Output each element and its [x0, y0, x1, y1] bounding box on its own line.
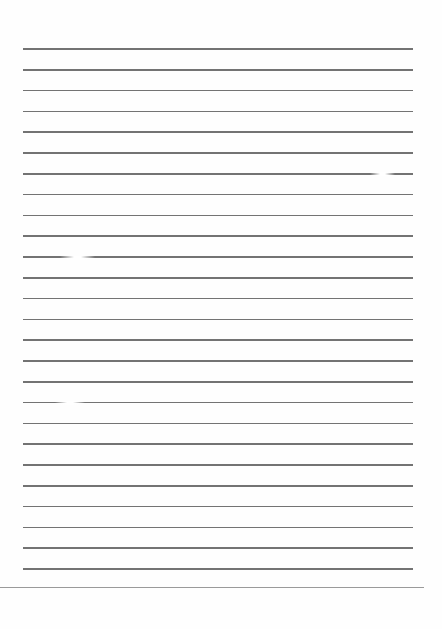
- ruled-line: [23, 527, 413, 529]
- ruled-line: [23, 152, 413, 154]
- ruled-line: [23, 568, 413, 570]
- ruled-line: [23, 547, 413, 549]
- ruled-line: [23, 381, 413, 383]
- ruled-line: [23, 506, 413, 508]
- ruled-line: [23, 319, 413, 321]
- ruled-line: [23, 277, 413, 279]
- ruled-line: [23, 194, 413, 196]
- ruled-line: [23, 131, 413, 133]
- ruled-line: [23, 111, 413, 113]
- scan-fade-spot: [60, 256, 95, 260]
- ruled-line: [23, 298, 413, 300]
- scan-fade-spot: [55, 401, 85, 405]
- ruled-line: [23, 69, 413, 71]
- ruled-line: [23, 360, 413, 362]
- page-bottom-edge: [0, 587, 424, 588]
- lined-paper-page: [0, 0, 442, 629]
- ruled-line: [23, 173, 413, 175]
- ruled-line: [23, 215, 413, 217]
- ruled-line: [23, 464, 413, 466]
- scan-fade-spot: [370, 172, 395, 176]
- ruled-line: [23, 423, 413, 425]
- ruled-line: [23, 443, 413, 445]
- ruled-line: [23, 235, 413, 237]
- ruled-line: [23, 90, 413, 92]
- ruled-line: [23, 339, 413, 341]
- ruled-line: [23, 485, 413, 487]
- ruled-line: [23, 48, 413, 50]
